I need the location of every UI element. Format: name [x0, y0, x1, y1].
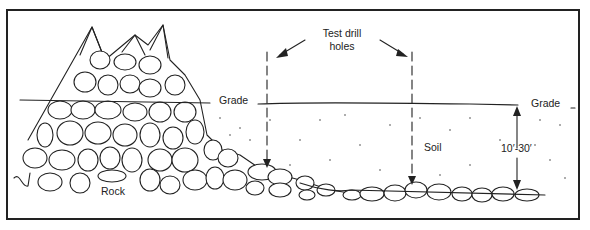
label-rock: Rock [101, 185, 126, 197]
rock-mound [14, 25, 350, 197]
soil-rock-cross-section: Test drill holes Grade Grade Soil 10′-30… [0, 0, 590, 230]
label-grade-right: Grade [531, 97, 560, 109]
drill-hole-right [408, 52, 416, 185]
label-test-drill-holes-1: Test drill [323, 27, 362, 39]
label-depth: 10′-30′ [501, 142, 532, 154]
drill-hole-left [263, 52, 271, 168]
label-soil: Soil [424, 141, 442, 153]
label-test-drill-holes-2: holes [329, 40, 354, 52]
bedrock-cobbles [299, 182, 545, 202]
grade-line [20, 100, 518, 105]
label-grade-left: Grade [219, 94, 248, 106]
